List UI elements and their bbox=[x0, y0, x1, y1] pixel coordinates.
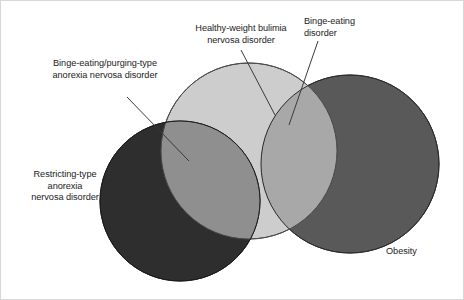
label-binge-purging-anorexia: Binge-eating/purging-type anorexia nervo… bbox=[25, 58, 185, 81]
venn-diagram-figure: Binge-eating/purging-type anorexia nervo… bbox=[0, 0, 464, 300]
label-healthy-weight-bulimia: Healthy-weight bulimia nervosa disorder bbox=[179, 23, 303, 46]
label-obesity: Obesity bbox=[386, 246, 456, 258]
label-binge-eating-disorder: Binge-eating disorder bbox=[304, 16, 390, 39]
label-restricting-anorexia: Restricting-type anorexia nervosa disord… bbox=[11, 169, 119, 204]
